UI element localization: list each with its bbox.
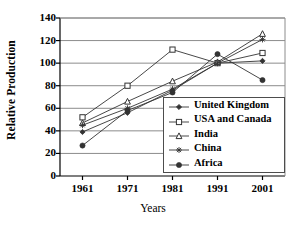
legend-label: India: [193, 129, 218, 140]
legend-item-china: China: [164, 141, 284, 155]
legend-item-africa: Africa: [164, 156, 284, 170]
legend-marker-filled-circle-icon: [167, 157, 193, 169]
legend-label: USA and Canada: [193, 114, 272, 125]
legend-marker-open-square-icon: [167, 114, 193, 126]
legend-marker-filled-diamond-icon: [167, 99, 193, 111]
legend-label: Africa: [193, 158, 223, 169]
legend-item-usa-and-canada: USA and Canada: [164, 112, 284, 126]
x-axis-title: Years: [0, 202, 306, 214]
relative-production-line-chart: Relative Production 020406080100120140 1…: [0, 0, 306, 228]
legend-label: United Kingdom: [193, 100, 269, 111]
legend-item-india: India: [164, 127, 284, 141]
legend-marker-asterisk-icon: [167, 142, 193, 154]
legend-item-united-kingdom: United Kingdom: [164, 98, 284, 112]
legend-label: China: [193, 143, 221, 154]
chart-legend: United Kingdom USA and Canada India Chin…: [163, 97, 285, 173]
legend-marker-open-triangle-icon: [167, 128, 193, 140]
